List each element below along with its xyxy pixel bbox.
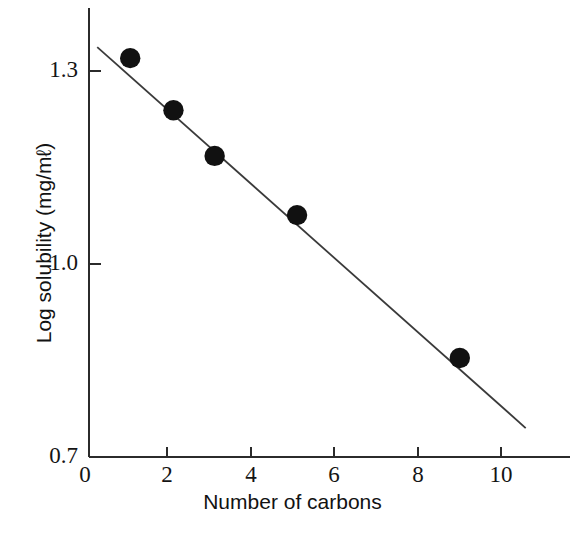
data-point[interactable] (204, 146, 224, 166)
x-axis-title: Number of carbons (0, 490, 585, 514)
data-point[interactable] (163, 100, 183, 120)
data-point[interactable] (287, 205, 307, 225)
data-point[interactable] (120, 48, 140, 68)
trend-line (97, 47, 525, 428)
data-point[interactable] (450, 348, 470, 368)
x-tick-label-0: 0 (62, 462, 108, 488)
y-axis-title: Log solubility (mg/mℓ) (32, 143, 55, 344)
x-tick-label-4: 4 (228, 462, 274, 488)
plot-area (0, 0, 585, 535)
data-point-group (120, 48, 470, 368)
x-tick-label-2: 2 (144, 462, 190, 488)
chart-figure: 1.3 1.0 0.7 0 2 4 6 8 10 Number of carbo… (0, 0, 585, 535)
x-tick-label-8: 8 (395, 462, 441, 488)
y-axis-title-wrapper: Log solubility (mg/mℓ) (32, 78, 62, 408)
x-tick-label-10: 10 (478, 462, 524, 488)
x-tick-label-6: 6 (311, 462, 357, 488)
